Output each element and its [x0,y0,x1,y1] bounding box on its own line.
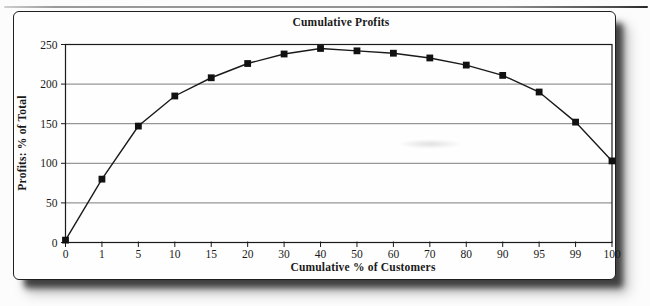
data-point-marker [572,119,579,126]
y-tick-label: 50 [46,197,58,209]
data-point-marker [281,51,288,58]
scan-smudge-artifact [398,139,462,149]
y-tick-label: 100 [40,157,58,169]
data-point-marker [426,55,433,62]
data-point-marker [390,50,397,57]
data-point-marker [609,158,616,165]
y-tick-label: 200 [40,78,58,90]
x-tick-label: 1 [99,248,105,260]
x-tick-label: 5 [135,248,141,260]
data-point-marker [171,93,178,100]
x-tick-label: 95 [533,248,545,260]
data-point-marker [354,47,361,54]
plot-border [66,45,613,243]
x-tick-label: 100 [603,248,621,260]
profit-line-chart: 0501001502002500151015203040506070809095… [0,0,650,306]
cumulative-profit-curve [66,48,613,240]
y-tick-label: 0 [52,237,58,249]
data-point-marker [99,176,106,183]
data-point-marker [499,72,506,79]
data-point-marker [317,45,324,52]
x-tick-label: 30 [278,248,290,260]
x-tick-label: 80 [461,248,473,260]
y-tick-label: 150 [40,118,58,130]
data-point-marker [208,74,215,81]
x-tick-label: 50 [351,248,363,260]
data-point-marker [536,89,543,96]
x-tick-label: 15 [205,248,217,260]
x-tick-label: 40 [315,248,327,260]
data-point-marker [244,60,251,67]
x-tick-label: 90 [497,248,509,260]
x-tick-label: 70 [424,248,436,260]
y-tick-label: 250 [40,39,58,51]
x-tick-label: 10 [169,248,181,260]
data-point-marker [135,123,142,130]
data-point-marker [62,237,69,244]
scanned-figure-page: Cumulative Profits Profits: % of Total C… [0,0,650,306]
x-tick-label: 0 [63,248,69,260]
x-tick-label: 60 [388,248,400,260]
x-tick-label: 20 [242,248,254,260]
x-tick-label: 99 [570,248,582,260]
data-point-marker [463,62,470,69]
